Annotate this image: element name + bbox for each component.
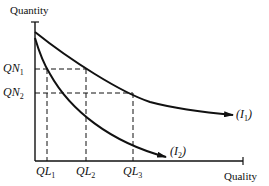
- y-tick-qn2: QN2: [3, 86, 24, 103]
- curve-i2: [35, 38, 166, 157]
- x-tick-ql3: QL3: [123, 165, 142, 182]
- x-tick-ql2: QL2: [76, 165, 95, 182]
- y-axis-label: Quantity: [10, 4, 49, 16]
- y-tick-qn1: QN1: [3, 62, 24, 79]
- diagram-graphics: [0, 0, 269, 186]
- quantity-quality-diagram: Quantity Quality QN1 QN2 QL1 QL2 QL3 (I1…: [0, 0, 269, 186]
- curve-label-i1: (I1): [236, 108, 252, 125]
- curve-label-i2: (I2): [170, 145, 186, 162]
- x-axis-label: Quality: [224, 170, 257, 182]
- x-tick-ql1: QL1: [36, 165, 55, 182]
- curve-i1: [35, 32, 233, 115]
